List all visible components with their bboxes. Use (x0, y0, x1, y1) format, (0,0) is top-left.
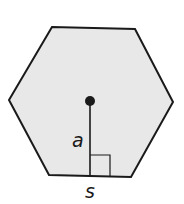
center-point (85, 96, 95, 106)
hexagon-diagram: a s (0, 0, 184, 204)
side-label: s (85, 180, 95, 202)
apothem-label: a (72, 129, 84, 151)
